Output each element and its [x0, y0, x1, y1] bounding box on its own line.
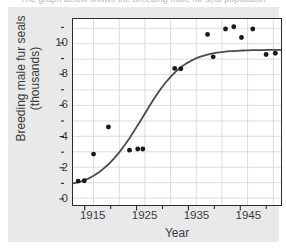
x-tick-label: 1925: [125, 209, 165, 221]
y-axis-tick-labels: 0246810: [38, 18, 68, 206]
cut-off-caption: The graph below shows the breeding male …: [0, 0, 286, 7]
data-layer: [73, 19, 281, 205]
y-tick-label: 8: [42, 68, 68, 80]
y-tick-label: 2: [42, 162, 68, 174]
y-tick-label: 10: [42, 37, 68, 49]
plot-area: [72, 18, 282, 206]
y-axis-title-line1: Breeding male fur seals: [14, 15, 28, 141]
figure: The graph below shows the breeding male …: [0, 0, 286, 248]
x-axis-tick-labels: 1915192519351945: [72, 209, 282, 225]
x-tick-label: 1945: [228, 209, 268, 221]
y-tick-label: 4: [42, 131, 68, 143]
y-axis-title: Breeding male fur seals (thousands): [15, 0, 42, 159]
chart-panel: 0246810 Breeding male fur seals (thousan…: [8, 7, 279, 242]
x-axis-title: Year: [72, 226, 282, 240]
x-tick-label: 1935: [176, 209, 216, 221]
cut-off-caption-text: The graph below shows the breeding male …: [0, 0, 286, 4]
y-axis-title-line2: (thousands): [28, 0, 42, 159]
y-tick-label: 6: [42, 99, 68, 111]
y-tick-label: 0: [42, 193, 68, 205]
x-tick-label: 1915: [73, 209, 113, 221]
